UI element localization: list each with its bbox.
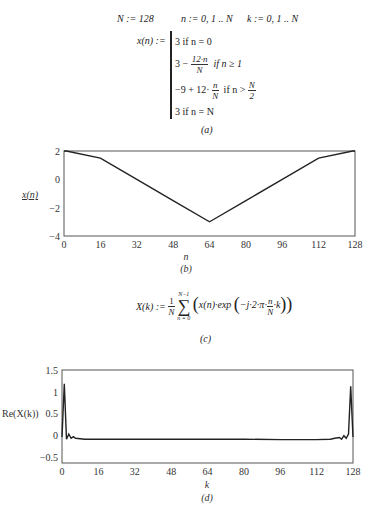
piecewise-bar	[170, 31, 172, 119]
x-axis-label: n	[184, 251, 189, 262]
x-tick-label: 80	[241, 239, 251, 250]
branch-1: 3 if n = 0	[175, 36, 212, 47]
x-tick-label: 112	[311, 239, 326, 250]
fraction: nN	[212, 80, 219, 101]
y-tick-label: −0.5	[40, 452, 58, 463]
svg-text:0: 0	[55, 174, 60, 185]
x-tick-label: 48	[168, 239, 178, 250]
svg-text:2: 2	[55, 146, 60, 157]
data-line	[64, 151, 355, 222]
branch-2: 3 − 12·nN if n ≥ 1	[175, 54, 242, 75]
y-tick-label: 0.5	[46, 408, 59, 419]
chart-b: 2 0 −2 −4 0163248648096112128 n (b) x(n)	[0, 140, 377, 280]
y-tick-label: 1.5	[46, 365, 59, 376]
y-tick-label: 0	[53, 430, 58, 441]
fraction: 1N	[168, 296, 175, 317]
def-n: n := 0, 1 .. N	[181, 13, 233, 24]
x-tick-label: 64	[205, 239, 215, 250]
y-tick-label: 1	[53, 387, 58, 398]
x-tick-label: 48	[166, 466, 176, 477]
svg-text:−2: −2	[49, 203, 60, 214]
x-tick-label: 112	[309, 466, 324, 477]
caption-a: (a)	[201, 124, 213, 135]
x-tick-label: 80	[239, 466, 249, 477]
dft-formula: X(k) := 1N N−1 ∑ n = 0 (x(n)·exp (−j·2·π…	[136, 287, 292, 327]
x-tick-label: 16	[93, 466, 103, 477]
x-tick-label: 96	[275, 466, 285, 477]
x-axis-ticks: 0163248648096112128	[60, 466, 361, 477]
plot-frame	[62, 370, 353, 463]
summation: N−1 ∑ n = 0	[177, 291, 190, 321]
x-tick-label: 32	[130, 466, 140, 477]
chart-d: 1.510.50−0.5 0163248648096112128 k (d) R…	[0, 360, 377, 513]
sigma-icon: ∑	[177, 297, 190, 315]
caption-b: (b)	[180, 263, 192, 275]
x-tick-label: 128	[348, 239, 363, 250]
plot-frame	[64, 151, 355, 236]
x-tick-label: 0	[62, 239, 67, 250]
branch-4: 3 if n = N	[175, 106, 214, 117]
y-axis-ticks: 2 0 −2 −4	[49, 146, 60, 242]
x-tick-label: 16	[95, 239, 105, 250]
fraction: 12·nN	[191, 54, 209, 75]
def-k: k := 0, 1 .. N	[247, 13, 298, 24]
svg-text:−4: −4	[49, 231, 60, 242]
x-tick-label: 0	[60, 466, 65, 477]
y-axis-label: x(n)	[21, 189, 39, 201]
caption-d: (d)	[201, 492, 213, 504]
x-tick-label: 96	[277, 239, 287, 250]
y-axis-ticks: 1.510.50−0.5	[40, 365, 58, 463]
x-tick-label: 32	[132, 239, 142, 250]
branch-3: −9 + 12· nN if n > N2	[175, 80, 256, 101]
def-N: N := 128	[117, 13, 154, 24]
x-axis-label: k	[205, 479, 210, 490]
x-function-lhs: x(n) :=	[137, 35, 166, 46]
x-tick-label: 128	[346, 466, 361, 477]
x-tick-label: 64	[203, 466, 213, 477]
caption-c: (c)	[200, 333, 211, 344]
fraction: N2	[248, 80, 256, 101]
x-axis-ticks: 0163248648096112128	[62, 239, 363, 250]
data-line	[62, 384, 353, 440]
y-axis-label: Re(X(k))	[2, 408, 39, 420]
